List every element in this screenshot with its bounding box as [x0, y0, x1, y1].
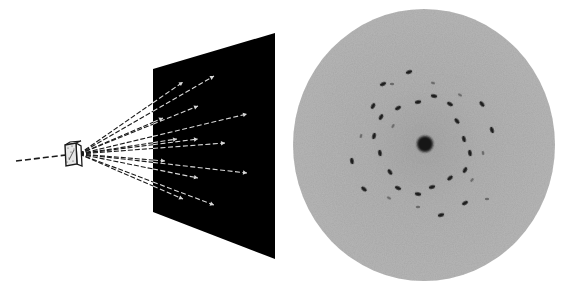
diffraction-diagram-canvas — [0, 0, 570, 291]
incident-xray-beam — [16, 155, 66, 161]
central-beam-spot — [417, 136, 433, 152]
diffraction-schematic — [16, 33, 275, 259]
crystal-texture-speck — [71, 145, 72, 146]
diffraction-spot — [485, 198, 489, 201]
diffracted-rays-outside — [79, 103, 153, 186]
detector-screen — [153, 33, 275, 259]
crystal-texture-speck — [70, 151, 71, 152]
crystal-sample — [65, 141, 82, 166]
crystal-texture-speck — [66, 161, 67, 162]
diffracted-ray — [79, 111, 153, 154]
diffraction-pattern-photo — [293, 9, 555, 281]
diffraction-spot — [416, 206, 420, 209]
crystal-texture-speck — [67, 147, 68, 148]
diffraction-figure: X-ray diffraction: schematic and diffrac… — [0, 0, 570, 291]
crystal-texture-speck — [72, 160, 73, 161]
diffraction-spot — [390, 83, 394, 86]
crystal-texture-speck — [73, 148, 74, 149]
